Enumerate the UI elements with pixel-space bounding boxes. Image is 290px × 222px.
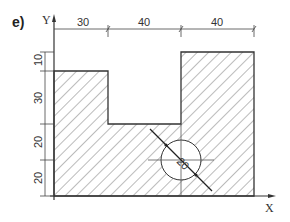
y-axis-arrow-icon: [52, 14, 56, 22]
hatched-profile: [54, 52, 254, 196]
y-axis: Y: [42, 13, 56, 200]
dim-left-2: 30: [32, 92, 44, 104]
dim-left-1: 10: [32, 54, 44, 66]
dim-left-3: 20: [32, 136, 44, 148]
dim-top-3: 40: [211, 16, 223, 28]
x-axis: X: [50, 194, 276, 215]
part-label: e): [12, 14, 24, 30]
dim-left-4: 20: [32, 172, 44, 184]
x-axis-arrow-icon: [268, 194, 276, 198]
dim-top-1: 30: [77, 16, 89, 28]
x-axis-label: X: [265, 201, 274, 215]
technical-drawing: e) 20 Y X 30 40 40: [0, 0, 290, 222]
y-axis-label: Y: [42, 13, 51, 27]
dim-top-2: 40: [138, 16, 150, 28]
